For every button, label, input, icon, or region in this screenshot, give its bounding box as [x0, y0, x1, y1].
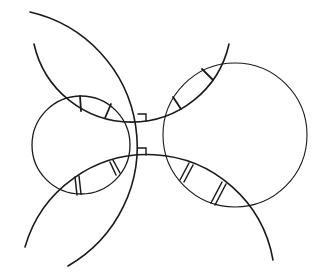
double-tick-bottom-left-1: [79, 176, 81, 194]
diagram-svg: [0, 0, 322, 279]
arc-a: [30, 12, 137, 266]
right-angle-upper: [138, 114, 146, 121]
tick-top-right-2: [173, 97, 181, 109]
right-circle: [163, 63, 307, 207]
double-tick-bottom-right-2: [215, 184, 226, 205]
double-tick-bottom-right-1: [180, 163, 189, 180]
tick-top-right-1: [202, 69, 213, 80]
arc-b: [34, 44, 229, 122]
double-tick-bottom-right-1: [184, 165, 193, 182]
tick-top-left-2: [105, 104, 111, 118]
geometry-diagram: [0, 0, 322, 279]
double-tick-bottom-left-1: [75, 177, 77, 195]
double-tick-bottom-right-2: [211, 182, 222, 203]
tick-top-left-1: [80, 96, 81, 111]
